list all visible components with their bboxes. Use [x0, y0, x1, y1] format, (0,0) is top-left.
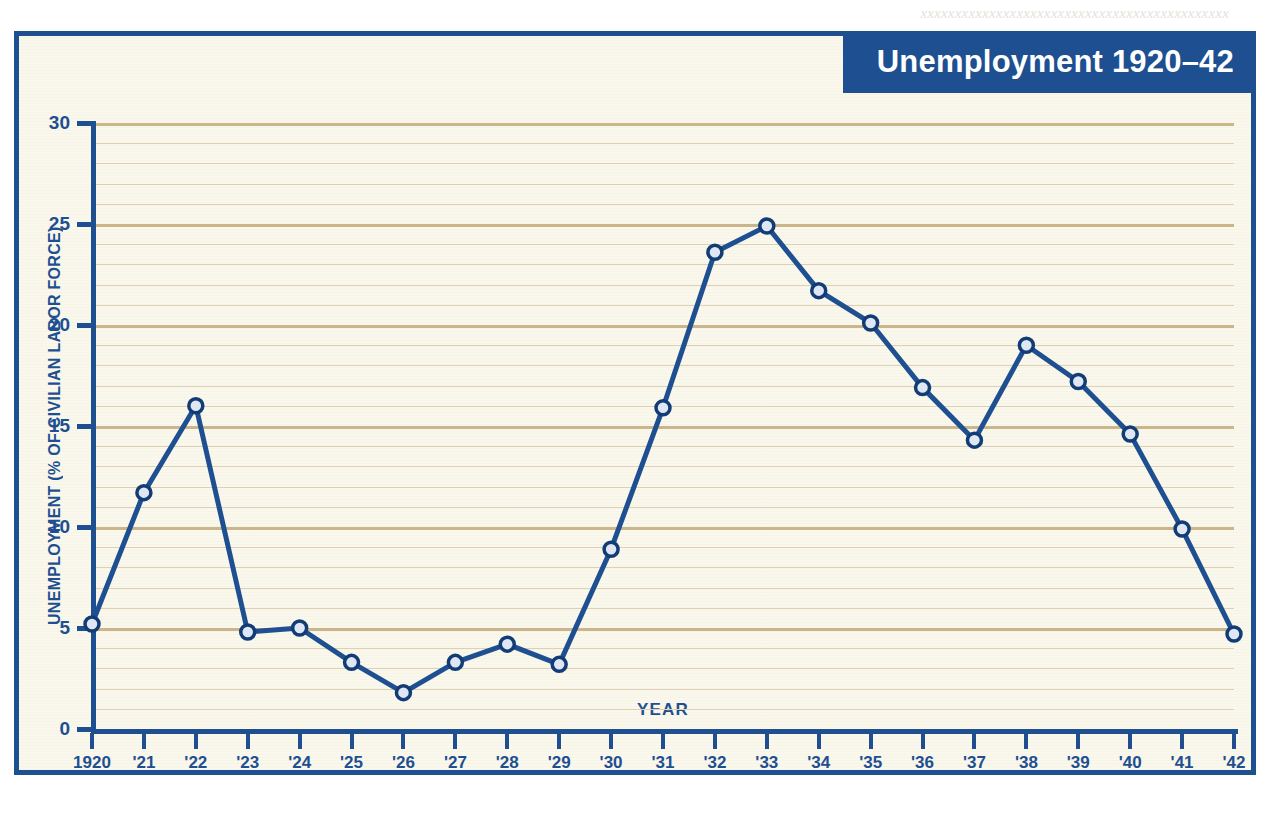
data-point-marker: '41: 9.9% — [1175, 522, 1189, 536]
data-point-marker: '26: 1.8% — [396, 686, 410, 700]
data-point-marker: '27: 3.3% — [448, 655, 462, 669]
chart-title: Unemployment 1920–42 — [877, 44, 1234, 80]
data-point-marker: '30: 8.9% — [604, 542, 618, 556]
x-axis-tick — [713, 733, 717, 749]
x-axis-tick-label: '31 — [652, 753, 675, 773]
data-point-marker: '23: 4.8% — [241, 625, 255, 639]
y-axis-tick — [77, 727, 93, 732]
data-point-marker: '21: 11.7% — [137, 486, 151, 500]
y-axis-tick — [77, 323, 93, 328]
x-axis-tick-label: '32 — [703, 753, 726, 773]
x-axis-tick — [298, 733, 302, 749]
chart-title-banner: Unemployment 1920–42 — [843, 31, 1256, 93]
x-axis-tick-label: '25 — [340, 753, 363, 773]
data-series-line: 1920: 5.2%'21: 11.7%'22: 16%'23: 4.8%'24… — [92, 123, 1234, 729]
data-point-marker: '37: 14.3% — [967, 433, 981, 447]
y-axis-tick — [77, 424, 93, 429]
y-axis-tick — [77, 222, 93, 227]
y-axis-tick-label: 0 — [59, 718, 70, 740]
data-point-marker: '42: 4.7% — [1227, 627, 1241, 641]
x-axis-tick — [142, 733, 146, 749]
y-axis-tick — [77, 121, 93, 126]
x-axis-tick-label: '28 — [496, 753, 519, 773]
x-axis-tick-label: '23 — [236, 753, 259, 773]
x-axis-tick — [609, 733, 613, 749]
x-axis-tick-label: '37 — [963, 753, 986, 773]
x-axis-tick — [401, 733, 405, 749]
x-axis-tick — [817, 733, 821, 749]
x-axis-tick-label: '38 — [1015, 753, 1038, 773]
data-point-marker: '32: 23.6% — [708, 245, 722, 259]
x-axis-tick — [246, 733, 250, 749]
data-point-marker: '33: 24.9% — [760, 219, 774, 233]
data-point-marker: '38: 19% — [1019, 338, 1033, 352]
x-axis-tick — [972, 733, 976, 749]
y-axis-tick — [77, 525, 93, 530]
x-axis-tick-label: '29 — [548, 753, 571, 773]
x-axis-tick-label: '41 — [1171, 753, 1194, 773]
x-axis-tick — [921, 733, 925, 749]
x-axis-tick — [194, 733, 198, 749]
chart-figure: Unemployment 1920–42 UNEMPLOYMENT (% OF … — [14, 31, 1256, 775]
data-point-marker: '39: 17.2% — [1071, 375, 1085, 389]
x-axis-tick-label: '26 — [392, 753, 415, 773]
chart-page: xxxxxxxxxxxxxxxxxxxxxxxxxxxxxxxxxxxxxxxx… — [0, 0, 1269, 817]
x-axis-tick — [90, 733, 94, 749]
data-point-marker: '34: 21.7% — [812, 284, 826, 298]
data-point-marker: '31: 15.9% — [656, 401, 670, 415]
x-axis-tick — [505, 733, 509, 749]
x-axis-tick-label: '24 — [288, 753, 311, 773]
x-axis-tick — [869, 733, 873, 749]
y-axis-tick-label: 15 — [49, 415, 70, 437]
x-axis-tick-label: '42 — [1223, 753, 1246, 773]
x-axis-tick-label: '30 — [600, 753, 623, 773]
x-axis-tick — [453, 733, 457, 749]
x-axis-tick-label: '39 — [1067, 753, 1090, 773]
plot-area: 051015202530 1920'21'22'23'24'25'26'27'2… — [92, 123, 1234, 729]
y-axis-tick-label: 5 — [59, 617, 70, 639]
data-point-marker: '22: 16% — [189, 399, 203, 413]
x-axis-tick-label: '21 — [132, 753, 155, 773]
data-point-marker: '35: 20.1% — [864, 316, 878, 330]
data-point-marker: '24: 5% — [293, 621, 307, 635]
x-axis-tick-label: '27 — [444, 753, 467, 773]
x-axis-tick-label: '36 — [911, 753, 934, 773]
x-axis-tick — [350, 733, 354, 749]
x-axis-tick-label: '35 — [859, 753, 882, 773]
page-bleed-text: xxxxxxxxxxxxxxxxxxxxxxxxxxxxxxxxxxxxxxxx… — [0, 0, 1269, 26]
data-point-marker: '36: 16.9% — [916, 381, 930, 395]
x-axis-tick — [1076, 733, 1080, 749]
y-axis-tick-label: 25 — [49, 213, 70, 235]
plot-canvas: 051015202530 1920'21'22'23'24'25'26'27'2… — [92, 123, 1234, 729]
x-axis-tick-label: '40 — [1119, 753, 1142, 773]
data-point-marker: '40: 14.6% — [1123, 427, 1137, 441]
y-axis-tick-label: 10 — [49, 516, 70, 538]
data-point-marker: '25: 3.3% — [345, 655, 359, 669]
x-axis-tick — [765, 733, 769, 749]
data-point-marker: '28: 4.2% — [500, 637, 514, 651]
x-axis-tick-label: '22 — [184, 753, 207, 773]
x-axis-tick-label: 1920 — [73, 753, 111, 773]
x-axis-tick — [1180, 733, 1184, 749]
x-axis-tick — [557, 733, 561, 749]
x-axis-tick — [1024, 733, 1028, 749]
x-axis-tick-label: '34 — [807, 753, 830, 773]
x-axis-tick — [1232, 733, 1236, 749]
x-axis-tick — [1128, 733, 1132, 749]
data-point-marker: '29: 3.2% — [552, 657, 566, 671]
x-axis-tick-label: '33 — [755, 753, 778, 773]
data-point-marker: 1920: 5.2% — [85, 617, 99, 631]
y-axis-tick-label: 30 — [49, 112, 70, 134]
x-axis-tick — [661, 733, 665, 749]
series-polyline — [92, 226, 1234, 693]
y-axis-tick-label: 20 — [49, 314, 70, 336]
